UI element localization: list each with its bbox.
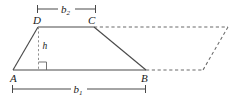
vertex-label-A: A	[9, 72, 17, 84]
dimension-b1-label: b1	[74, 83, 83, 98]
edge-AD-left-leg	[13, 27, 38, 70]
dimension-b2-subscript: 2	[67, 9, 71, 17]
right-angle-marker	[39, 62, 47, 70]
trapezoid-outline	[13, 27, 146, 70]
vertex-label-D: D	[32, 14, 41, 26]
dashed-extension	[94, 27, 228, 70]
dimension-b1-subscript: 1	[79, 89, 83, 97]
vertex-label-C: C	[88, 14, 96, 26]
dimension-b2-label: b2	[61, 3, 71, 18]
geometry-figure: b2 h D C A B	[0, 0, 237, 100]
right-angle-square	[39, 62, 47, 70]
trapezoid-diagram: b2 h D C A B	[0, 0, 237, 100]
vertex-labels: D C A B	[9, 14, 148, 84]
dimension-b2: b2	[38, 3, 96, 18]
edge-CB-right-leg	[94, 27, 146, 70]
dimension-b1: b1	[13, 83, 146, 98]
dashed-right-slant-edge	[203, 27, 228, 70]
height-label: h	[43, 41, 48, 51]
vertex-label-B: B	[141, 72, 148, 84]
